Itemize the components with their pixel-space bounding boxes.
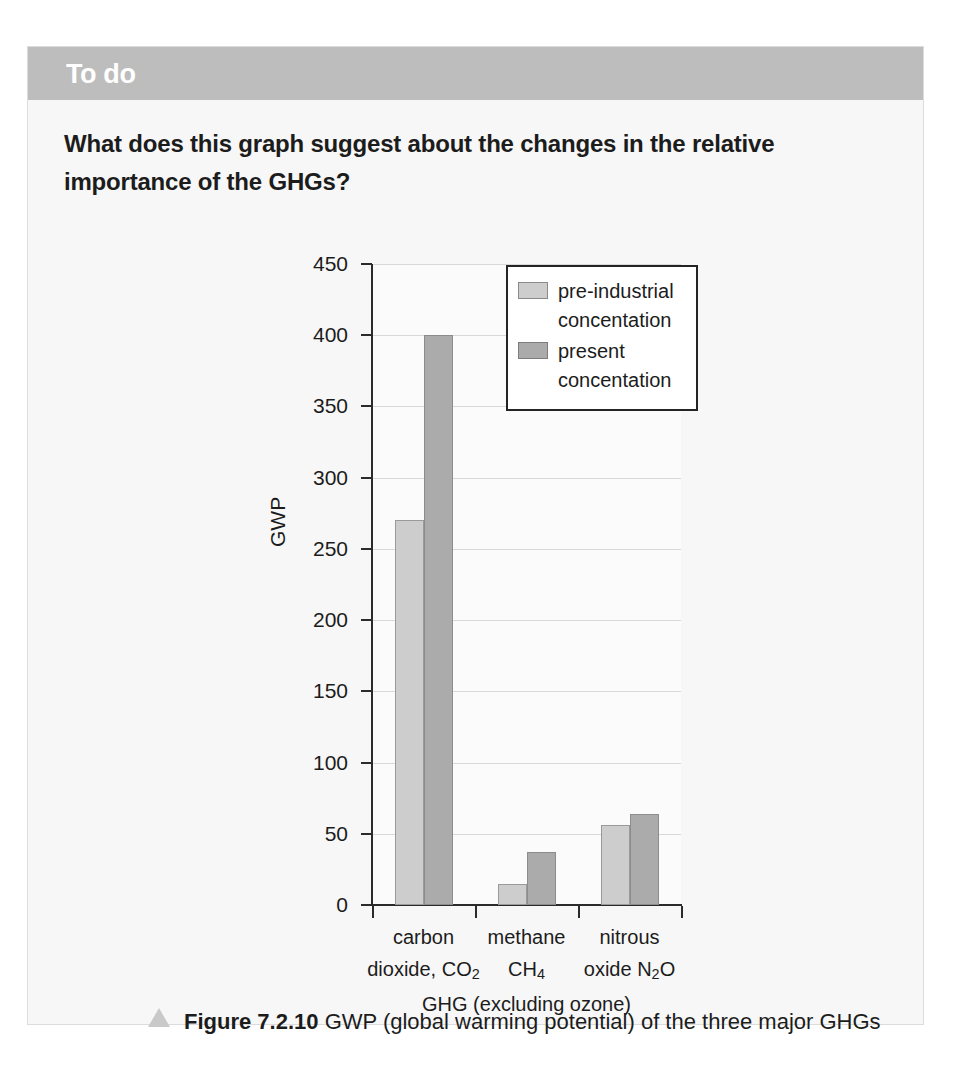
- page-root: To do What does this graph suggest about…: [0, 0, 973, 1065]
- y-tick: [361, 477, 372, 479]
- figure-caption: Figure 7.2.10 GWP (global warming potent…: [148, 1009, 881, 1035]
- bar: [601, 825, 630, 905]
- legend-label-pre-industrial-line1: pre-industrial: [558, 280, 674, 302]
- y-tick-label: 100: [288, 751, 348, 775]
- y-tick-label: 0: [288, 893, 348, 917]
- bar: [527, 852, 556, 905]
- y-tick: [361, 619, 372, 621]
- to-do-header-bar: To do: [28, 47, 923, 100]
- legend-label-present-line1: present: [558, 340, 625, 362]
- to-do-question-text: What does this graph suggest about the c…: [64, 125, 894, 201]
- figure-caption-body: GWP (global warming potential) of the th…: [319, 1009, 881, 1034]
- y-tick: [361, 904, 372, 906]
- bar: [395, 520, 424, 905]
- x-tick: [578, 906, 580, 918]
- bar: [498, 884, 527, 905]
- legend-label-present-line2: concentation: [558, 369, 671, 391]
- legend-label-pre-industrial: pre-industrial concentation: [558, 277, 674, 335]
- y-tick: [361, 548, 372, 550]
- gridline: [372, 478, 681, 479]
- legend-swatch-present: [518, 342, 548, 359]
- legend-label-present: present concentation: [558, 337, 671, 395]
- to-do-card: To do What does this graph suggest about…: [27, 46, 924, 1025]
- legend-label-pre-industrial-line2: concentation: [558, 309, 671, 331]
- legend-swatch-pre-industrial: [518, 282, 548, 299]
- y-axis-title: GWP: [266, 497, 290, 547]
- y-tick-label: 50: [288, 822, 348, 846]
- y-tick-label: 250: [288, 537, 348, 561]
- y-tick-label: 400: [288, 323, 348, 347]
- y-tick: [361, 405, 372, 407]
- y-tick: [361, 263, 372, 265]
- y-tick-label: 450: [288, 252, 348, 276]
- x-tick: [475, 906, 477, 918]
- bar: [630, 814, 659, 905]
- y-tick-label: 350: [288, 394, 348, 418]
- y-tick: [361, 762, 372, 764]
- y-tick-label: 150: [288, 679, 348, 703]
- x-tick: [681, 906, 683, 918]
- chart-legend: pre-industrial concentation present conc…: [506, 265, 698, 411]
- x-category-label: nitrousoxide N2O: [550, 921, 710, 990]
- gwp-bar-chart: 050100150200250300350400450 GWP carbondi…: [28, 207, 925, 1027]
- y-tick-label: 200: [288, 608, 348, 632]
- y-tick: [361, 690, 372, 692]
- figure-number: Figure 7.2.10: [184, 1009, 319, 1034]
- y-axis-line: [371, 264, 373, 906]
- y-tick-label: 300: [288, 466, 348, 490]
- to-do-header-title: To do: [66, 59, 135, 90]
- y-tick: [361, 833, 372, 835]
- bar: [424, 335, 453, 905]
- x-tick: [372, 906, 374, 918]
- legend-item-pre-industrial: pre-industrial concentation: [518, 277, 686, 335]
- triangle-icon: [148, 1008, 170, 1027]
- y-tick: [361, 334, 372, 336]
- legend-item-present: present concentation: [518, 337, 686, 395]
- figure-caption-text: Figure 7.2.10 GWP (global warming potent…: [184, 1009, 881, 1035]
